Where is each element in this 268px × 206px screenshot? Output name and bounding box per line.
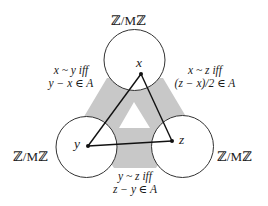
diagram-canvas: ℤ/Mℤ ℤ/Mℤ ℤ/Mℤ x y z x ~ y iff y − x ∈ A…: [0, 0, 268, 206]
relation-xz-line1: x ~ z iff: [168, 64, 242, 77]
vertex-label-z-text: z: [179, 132, 184, 147]
ring-label-top: ℤ/Mℤ: [111, 14, 146, 27]
relation-xz-line2: (z − x)/2 ∈ A: [168, 77, 242, 90]
vertex-label-x-text: x: [136, 55, 142, 70]
vertex-label-z: z: [179, 133, 184, 146]
relation-xy-line2: y − x ∈ A: [38, 77, 104, 90]
relation-yz-line1: y ~ z iff: [103, 170, 167, 183]
ring-label-top-text: ℤ/Mℤ: [111, 13, 146, 28]
vertex-dot-x: [139, 72, 143, 76]
ring-label-right-text: ℤ/Mℤ: [217, 149, 252, 164]
relation-yz: y ~ z iff z − y ∈ A: [103, 170, 167, 196]
vertex-label-y-text: y: [74, 136, 80, 151]
ring-circle-x: [104, 30, 165, 91]
vertex-label-x: x: [136, 56, 142, 69]
vertex-label-y: y: [74, 137, 80, 150]
relation-yz-line2: z − y ∈ A: [103, 183, 167, 196]
ring-label-right: ℤ/Mℤ: [217, 150, 252, 163]
vertex-dot-z: [170, 139, 174, 143]
relation-xz: x ~ z iff (z − x)/2 ∈ A: [168, 64, 242, 90]
ring-label-left: ℤ/Mℤ: [13, 150, 48, 163]
relation-xy: x ~ y iff y − x ∈ A: [38, 64, 104, 90]
relation-xy-line1: x ~ y iff: [38, 64, 104, 77]
ring-label-left-text: ℤ/Mℤ: [13, 149, 48, 164]
vertex-dot-y: [86, 144, 90, 148]
